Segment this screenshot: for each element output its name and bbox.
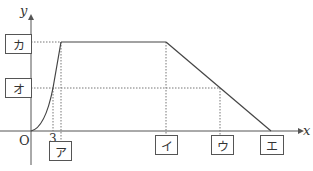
box-a: ア [49, 141, 72, 161]
x-axis-label: x [303, 123, 310, 138]
y-axis-arrow-icon [28, 14, 34, 20]
graph-curve [31, 42, 61, 131]
box-ka: カ [5, 34, 32, 54]
box-u: ウ [211, 135, 234, 155]
box-o: オ [5, 78, 32, 98]
origin-label: O [19, 133, 30, 148]
y-axis-label: y [20, 3, 27, 18]
graph-decline [166, 42, 271, 131]
box-e: エ [260, 135, 284, 155]
box-i: イ [155, 135, 178, 155]
